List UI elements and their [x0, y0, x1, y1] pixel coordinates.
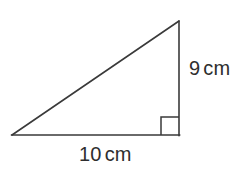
right-angle-marker-icon [161, 117, 179, 135]
hypotenuse-line [12, 21, 179, 135]
vertical-leg-value: 9 [189, 57, 200, 79]
vertical-leg-unit: cm [203, 57, 230, 79]
triangle-figure: 9cm 10cm [0, 0, 234, 174]
horizontal-leg-value: 10 [79, 143, 102, 165]
vertical-leg-label: 9cm [189, 58, 230, 78]
horizontal-leg-label: 10cm [79, 144, 132, 164]
horizontal-leg-unit: cm [105, 143, 132, 165]
